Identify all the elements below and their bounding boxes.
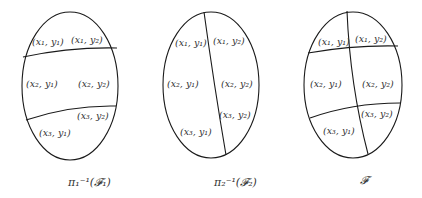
panel-f: (x₁, y₁) (x₁, y₂) (x₂, y₁) (x₂, y₂) (x₃,…	[304, 11, 402, 187]
panel-3-caption: 𝓕	[360, 174, 372, 187]
panel-3-cell-x1-y2: (x₁, y₂)	[355, 33, 387, 44]
panel-2-caption: π₂⁻¹(𝓕₂)	[213, 176, 257, 189]
panel-3-cell-x1-y1: (x₁, y₁)	[318, 36, 350, 47]
panel-1-cell-x3-y1: (x₃, y₁)	[39, 127, 71, 138]
panel-1-cell-x1-y1: (x₁, y₁)	[32, 36, 64, 47]
panel-1-cell-x2-y1: (x₂, y₁)	[26, 78, 58, 89]
panel-3-cell-x2-y2: (x₂, y₂)	[362, 78, 394, 89]
panel-2-cell-x3-y1: (x₃, y₁)	[180, 126, 212, 137]
panel-pi1-inverse-f1: (x₁, y₁) (x₁, y₂) (x₂, y₁) (x₂, y₂) (x₃,…	[22, 12, 118, 189]
panel-3-cell-x3-y1: (x₃, y₁)	[323, 125, 355, 136]
diagram-canvas: (x₁, y₁) (x₁, y₂) (x₂, y₁) (x₂, y₂) (x₃,…	[0, 0, 422, 198]
panel-3-cell-x3-y2: (x₃, y₂)	[361, 108, 393, 119]
panel-1-cell-x1-y2: (x₁, y₂)	[71, 34, 103, 45]
panel-2-cell-x1-y1: (x₁, y₁)	[175, 37, 207, 48]
panel-1-caption: π₁⁻¹(𝓕₁)	[67, 176, 111, 189]
panel-1-cell-x2-y2: (x₂, y₂)	[78, 78, 110, 89]
panel-pi2-inverse-f2: (x₁, y₁) (x₁, y₂) (x₂, y₁) (x₂, y₂) (x₃,…	[163, 12, 259, 189]
panel-1-cell-x3-y2: (x₃, y₂)	[77, 110, 109, 121]
panel-2-cell-x1-y2: (x₁, y₂)	[213, 35, 245, 46]
panel-2-cell-x2-y2: (x₂, y₂)	[221, 78, 253, 89]
panel-3-cell-x2-y1: (x₂, y₁)	[310, 78, 342, 89]
panel-1-upper-horizontal-curve	[23, 48, 117, 57]
panel-2-cell-x3-y2: (x₃, y₂)	[219, 109, 251, 120]
panel-2-cell-x2-y1: (x₂, y₁)	[167, 78, 199, 89]
